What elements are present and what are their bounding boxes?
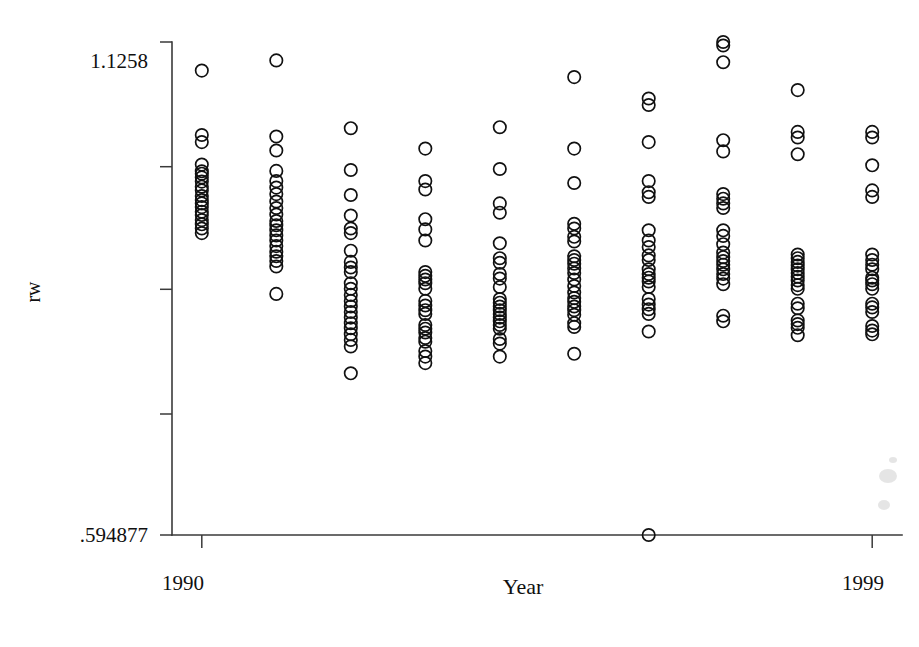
data-point bbox=[717, 56, 729, 68]
x-axis-tick-label-left: 1990 bbox=[162, 571, 204, 595]
series-1991 bbox=[270, 54, 282, 300]
x-axis-tick-label-right: 1999 bbox=[842, 571, 884, 595]
data-point bbox=[643, 325, 655, 337]
data-point bbox=[792, 148, 804, 160]
series-1994 bbox=[494, 121, 506, 363]
data-point bbox=[345, 209, 357, 221]
data-point bbox=[270, 144, 282, 156]
series-1999 bbox=[866, 126, 878, 341]
series-1990 bbox=[196, 64, 208, 239]
data-point bbox=[196, 136, 208, 148]
data-point bbox=[419, 183, 431, 195]
series-1996 bbox=[643, 92, 655, 541]
data-point bbox=[568, 71, 580, 83]
y-axis-title: rw bbox=[22, 281, 44, 303]
data-point bbox=[568, 142, 580, 154]
data-point bbox=[568, 348, 580, 360]
data-point bbox=[568, 177, 580, 189]
y-axis-tick-label-top: 1.1258 bbox=[90, 49, 148, 73]
data-point bbox=[494, 207, 506, 219]
series-1998 bbox=[792, 84, 804, 342]
data-point bbox=[866, 159, 878, 171]
scan-artifact bbox=[878, 457, 897, 510]
y-axis-tick-label-bottom: .594877 bbox=[80, 523, 148, 547]
data-points-layer bbox=[196, 36, 879, 541]
data-point bbox=[270, 54, 282, 66]
data-point bbox=[345, 122, 357, 134]
data-point bbox=[270, 130, 282, 142]
x-axis-title: Year bbox=[503, 574, 544, 599]
data-point bbox=[494, 350, 506, 362]
data-point bbox=[494, 163, 506, 175]
data-point bbox=[494, 237, 506, 249]
series-1992 bbox=[345, 122, 357, 379]
x-axis-ticks bbox=[202, 535, 872, 548]
series-1995 bbox=[568, 71, 580, 360]
data-point bbox=[494, 121, 506, 133]
data-point bbox=[419, 142, 431, 154]
data-point bbox=[345, 367, 357, 379]
data-point bbox=[345, 189, 357, 201]
series-1997 bbox=[717, 36, 729, 328]
series-1993 bbox=[419, 142, 431, 369]
data-point bbox=[270, 288, 282, 300]
data-point bbox=[792, 84, 804, 96]
scatter-plot-figure: 1.1258 .594877 rw 1990 1999 Year bbox=[0, 0, 919, 647]
data-point bbox=[345, 164, 357, 176]
data-point bbox=[494, 281, 506, 293]
y-axis-ticks bbox=[160, 42, 172, 535]
plot-canvas: 1.1258 .594877 rw 1990 1999 Year bbox=[0, 0, 919, 647]
data-point bbox=[196, 129, 208, 141]
data-point bbox=[196, 64, 208, 76]
data-point bbox=[643, 136, 655, 148]
